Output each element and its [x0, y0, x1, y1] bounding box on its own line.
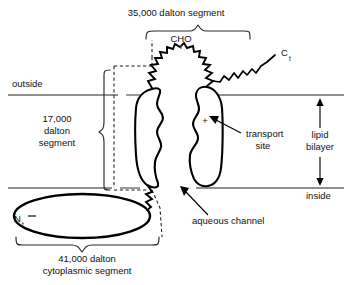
c-terminus-label: C [281, 47, 288, 58]
left-segment-label-line3: segment [39, 137, 76, 148]
membrane-protein-diagram: 35,000 dalton segment 17,000 dalton segm… [0, 0, 352, 285]
top-segment-label: 35,000 dalton segment [128, 7, 225, 18]
diagram-canvas: 35,000 dalton segment 17,000 dalton segm… [0, 0, 352, 285]
n-terminus-subscript: t [22, 221, 24, 228]
inside-label: inside [306, 190, 331, 201]
lipid-bilayer-label-line2: bilayer [306, 141, 334, 152]
transport-site-charge: + [202, 115, 208, 126]
left-segment-label-line1: 17,000 [42, 113, 71, 124]
transport-site-label-line2: site [256, 140, 271, 151]
left-segment-label-line2: dalton [44, 125, 70, 136]
bottom-segment-label-line1: 41,000 dalton [58, 253, 116, 264]
c-terminus-subscript: t [289, 55, 291, 62]
lipid-bilayer-label-line1: lipid [312, 129, 329, 140]
outside-label: outside [12, 78, 43, 89]
cho-label: CHO [170, 33, 191, 44]
transport-site-label-line1: transport [246, 128, 284, 139]
n-terminus-label: N [14, 213, 21, 224]
bottom-segment-label-line2: cytoplasmic segment [43, 265, 132, 276]
aqueous-channel-label: aqueous channel [192, 215, 264, 226]
